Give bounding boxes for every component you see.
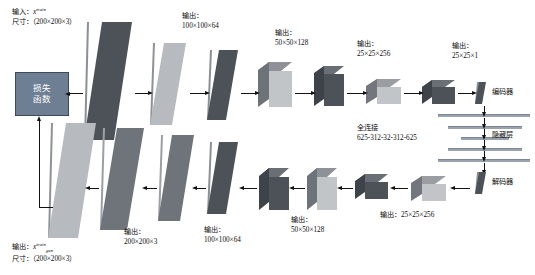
slab-face [207, 50, 238, 120]
output-label-prefix: 输出： [12, 243, 33, 251]
encoder-slab-2 [207, 50, 238, 120]
decoder-slab-1 [207, 142, 238, 214]
arrow-enc-6 [404, 93, 419, 94]
feedback-line-h [39, 207, 53, 208]
label-prefix: 输出： [182, 12, 203, 20]
loss-function-box: 损失 函数 [15, 72, 69, 116]
decoder-label-2: 输出： 100×100×64 [204, 226, 241, 245]
fully-connected-label: 全连接 625-312-32-312-625 [357, 124, 417, 143]
arrow-enc-7 [458, 93, 472, 94]
loss-line-2: 函数 [33, 94, 51, 105]
box-side [422, 80, 432, 104]
slab-face [48, 123, 96, 238]
arrow-dec-2 [394, 188, 408, 189]
label-value: 100×100×64 [182, 22, 219, 32]
label-value: 200×200×3 [124, 238, 157, 248]
input-label-prefix: 输入： [12, 8, 33, 16]
arrow-dec-3 [341, 188, 353, 189]
arrow-dec-1 [454, 188, 470, 189]
box-side [307, 168, 317, 210]
encoder-box-2 [314, 66, 344, 106]
label-value: 100×100×64 [204, 236, 241, 246]
arrow-enc-3 [241, 93, 255, 94]
encoder-label-1: 输出： 100×100×64 [182, 12, 219, 31]
slab-face [207, 142, 238, 214]
output-label-sub: gen [46, 248, 53, 253]
arrow-dec-5 [243, 188, 257, 189]
encoder-label-4: 输出： 25×25×1 [452, 42, 478, 61]
output-label-sup: train [36, 242, 46, 247]
decoder-slab-3 [100, 128, 144, 230]
decoder-box-3 [307, 168, 337, 210]
encoder-box-4 [422, 80, 455, 104]
fc-arrow-5 [484, 151, 485, 157]
box-front [269, 71, 292, 107]
arrow-enc-1 [135, 93, 148, 94]
box-front [324, 74, 344, 106]
fc-dims: 625-312-32-312-625 [357, 134, 417, 144]
box-side [259, 168, 269, 210]
slab-face [100, 128, 144, 230]
arrow-dec-7 [146, 188, 157, 189]
fc-title: 全连接 [357, 124, 378, 132]
decoder-label-1: 输出： 200×200×3 [124, 228, 157, 247]
hidden-layer-tag: 隐藏层 [492, 131, 513, 141]
hidden-layer-tag-text: 隐藏层 [492, 131, 513, 139]
decoder-box-4 [259, 168, 289, 210]
box-front [317, 177, 337, 210]
box-front [422, 184, 446, 201]
encoder-label-3: 输出： 25×25×256 [357, 40, 390, 59]
slab-face [150, 43, 186, 125]
box-front [377, 87, 401, 104]
decoder-box-2 [355, 174, 388, 199]
box-side [366, 79, 377, 104]
encoder-box-1 [258, 62, 292, 107]
output-label: 输出：xtraingen 尺寸：（200×200×3） [12, 240, 76, 265]
feedback-arrow-to-loss [39, 120, 40, 208]
loss-line-1: 损失 [33, 83, 51, 94]
label-value: 50×50×128 [291, 226, 324, 236]
arrow-enc-4 [295, 93, 311, 94]
label-value: 25×25×1 [452, 52, 478, 62]
box-front [269, 177, 289, 210]
box-side [258, 62, 269, 107]
fc-arrow-3 [484, 129, 485, 135]
input-size-value: （200×200×3） [33, 18, 76, 26]
arrow-dec-6 [196, 188, 206, 189]
input-size-prefix: 尺寸： [12, 18, 33, 26]
box-front [365, 182, 388, 199]
arrow-dec-4 [293, 188, 305, 189]
arrow-enc-2 [190, 93, 205, 94]
encoder-slab-1 [150, 43, 186, 125]
label-prefix: 输出： [204, 226, 225, 234]
decoder-slab-2 [158, 135, 194, 221]
decoder-tag: 解码器 [492, 178, 513, 188]
box-side [411, 176, 422, 201]
output-size-prefix: 尺寸： [12, 255, 33, 263]
label-prefix: 输出： [357, 40, 378, 48]
arrow-enc-5 [347, 93, 363, 94]
slab-face [158, 135, 194, 221]
decoder-input-slab [475, 172, 486, 194]
fc-arrow-6 [484, 163, 485, 170]
input-label: 输入：xtrain 尺寸：（200×200×3） [12, 5, 76, 27]
decoder-label-3: 输出： 50×50×128 [291, 216, 324, 235]
encoder-box-3 [366, 79, 401, 104]
decoder-tag-text: 解码器 [492, 178, 513, 186]
label-value: 25×25×256 [357, 50, 390, 60]
label-prefix: 输出： [291, 216, 312, 224]
encoder-output-slab [475, 82, 486, 104]
fc-arrow-2 [484, 118, 485, 124]
box-front [432, 87, 455, 104]
fc-arrow-1 [484, 106, 485, 112]
encoder-label-2: 输出： 50×50×128 [275, 29, 308, 48]
box-side [314, 66, 324, 106]
encoder-tag: 编码器 [492, 88, 513, 98]
output-size-value: （200×200×3） [33, 255, 76, 263]
label-prefix: 输出： [124, 228, 145, 236]
label-inline: 输出：25×25×256 [380, 211, 434, 219]
label-value: 50×50×128 [275, 39, 308, 49]
decoder-box-1 [411, 176, 446, 201]
arrow-to-loss [70, 93, 83, 94]
architecture-diagram: 输入：xtrain 尺寸：（200×200×3） 输出： 100×100×64 … [0, 0, 535, 275]
